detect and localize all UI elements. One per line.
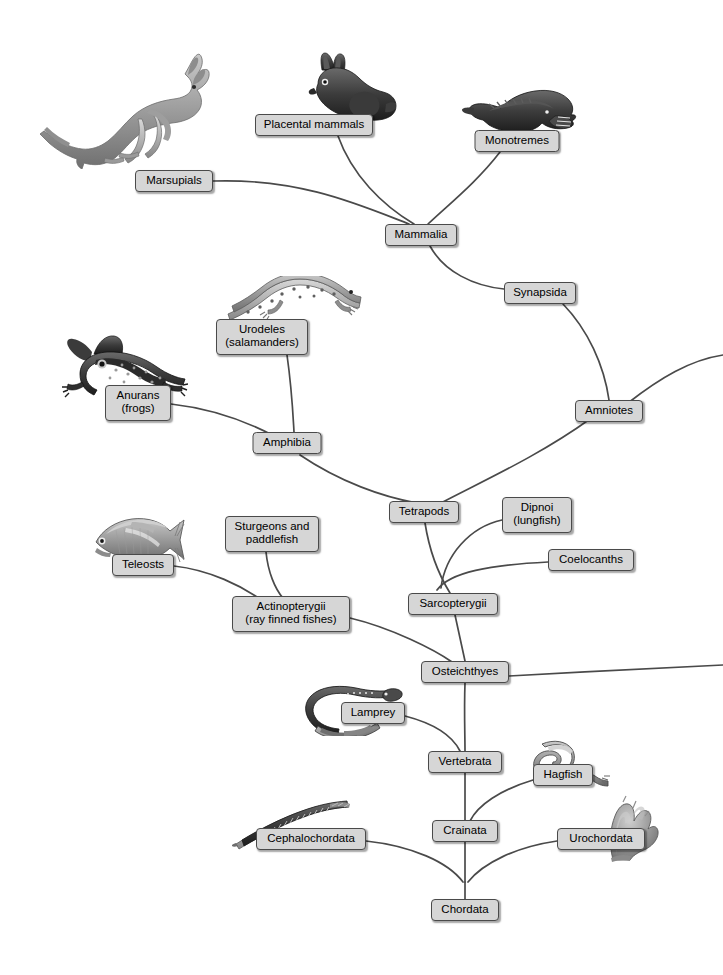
branch-amniotes-to-right-edge [628, 355, 723, 403]
branch-cephalo-to-chordata-node [366, 841, 463, 882]
taxon-label-chordata[interactable]: Chordata [431, 899, 499, 921]
taxon-label-actinopterygii[interactable]: Actinopterygii (ray finned fishes) [232, 596, 350, 632]
branch-dipnoi-to-sarc-node [441, 520, 502, 588]
taxon-label-dipnoi[interactable]: Dipnoi (lungfish) [502, 497, 572, 533]
taxon-label-lamprey[interactable]: Lamprey [341, 702, 405, 724]
branch-actino-to-osteichthyes [350, 618, 452, 662]
taxon-label-teleosts[interactable]: Teleosts [112, 554, 174, 576]
taxon-label-vertebrata[interactable]: Vertebrata [428, 751, 502, 773]
branch-urochordata-to-chordata-node [468, 841, 557, 882]
taxon-label-amniotes[interactable]: Amniotes [575, 400, 643, 422]
branch-monotremes-to-mammalia [428, 152, 500, 224]
phylogenetic-tree-diagram: MarsupialsPlacental mammalsMonotremesMam… [0, 0, 723, 975]
branch-urodeles-to-amphibia [287, 355, 294, 432]
taxon-label-anurans[interactable]: Anurans (frogs) [105, 385, 171, 421]
taxon-label-mammalia[interactable]: Mammalia [385, 224, 457, 246]
taxon-label-monotremes[interactable]: Monotremes [475, 130, 560, 152]
taxon-label-osteichthyes[interactable]: Osteichthyes [421, 661, 509, 683]
taxon-label-crainata[interactable]: Crainata [432, 820, 498, 842]
taxon-label-placental[interactable]: Placental mammals [255, 114, 373, 136]
branch-osteichthyes-to-right-edge [509, 665, 723, 676]
branch-amphibia-to-tetrapods [300, 455, 417, 503]
taxon-label-hagfish[interactable]: Hagfish [533, 764, 593, 786]
taxon-label-sturgeons[interactable]: Sturgeons and paddlefish [225, 516, 319, 552]
tunicate-illustration [593, 788, 659, 862]
taxon-label-amphibia[interactable]: Amphibia [253, 432, 322, 454]
branch-sturgeons-to-actino [266, 552, 283, 598]
taxon-label-cephalochordata[interactable]: Cephalochordata [256, 828, 366, 850]
branch-amniotes-to-tetrapods [441, 419, 590, 503]
kangaroo-illustration [38, 47, 214, 169]
taxon-label-tetrapods[interactable]: Tetrapods [389, 501, 459, 523]
branch-marsupials-to-mammalia [213, 181, 409, 224]
taxon-label-urodeles[interactable]: Urodeles (salamanders) [216, 319, 308, 355]
taxon-label-sarcopterygii[interactable]: Sarcopterygii [408, 593, 498, 615]
branch-sarcopterygii-to-osteich [455, 615, 465, 661]
taxon-label-marsupials[interactable]: Marsupials [135, 170, 213, 192]
branch-synapsida-to-amniotes [563, 304, 609, 400]
taxon-label-coelocanths[interactable]: Coelocanths [548, 549, 634, 571]
taxon-label-urochordata[interactable]: Urochordata [557, 828, 645, 850]
branch-lamprey-to-vertebrata [405, 716, 460, 751]
branch-coelocanths-to-sarc-node [437, 562, 548, 590]
taxon-label-synapsida[interactable]: Synapsida [504, 282, 576, 304]
branch-mammalia-to-synapsida [430, 246, 504, 289]
